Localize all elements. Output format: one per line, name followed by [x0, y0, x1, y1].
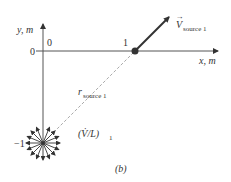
vector-arrow-accent-icon: →: [176, 12, 184, 21]
source-strength-label: (V̇/L) 1: [78, 128, 113, 142]
y-axis-label: y, m: [16, 24, 33, 35]
velocity-subscript: source 1: [183, 25, 207, 33]
radius-label: r source 1: [78, 86, 107, 100]
y-tick-neg1-label: −1: [14, 138, 25, 149]
radius-symbol: r: [78, 86, 82, 97]
x-axis-label: x, m: [198, 55, 216, 66]
x-origin-tick-label: 0: [47, 37, 52, 48]
source-strength-subscript: 1: [109, 134, 113, 142]
figure-caption: (b): [115, 163, 127, 175]
velocity-label: V → source 1: [176, 12, 208, 33]
source-velocity-diagram: y, m 0 0 1 x, m −1 V → source 1 r source…: [0, 0, 231, 182]
source-strength-symbol: (V̇/L): [78, 128, 100, 140]
y-origin-tick-label: 0: [30, 46, 35, 57]
radius-subscript: source 1: [83, 92, 107, 100]
x-tick-1-label: 1: [123, 37, 128, 48]
velocity-vector-arrow: [135, 17, 169, 51]
